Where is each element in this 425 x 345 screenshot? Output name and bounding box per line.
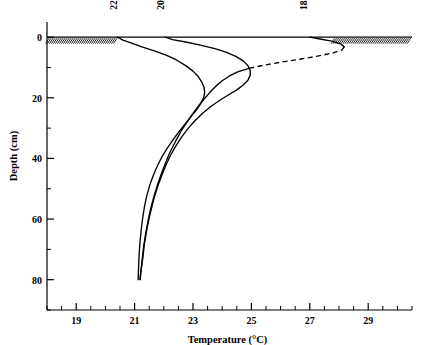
curve-label-2230: 2230 xyxy=(109,0,119,10)
surface-hatch-line xyxy=(46,37,413,44)
soil-temperature-depth-profile-chart: 223020301830 020406080192123252729 Tempe… xyxy=(0,0,425,345)
curve-label-2030: 2030 xyxy=(156,0,166,10)
x-axis-tick-label: 27 xyxy=(305,315,315,326)
y-axis-tick-label: 20 xyxy=(32,93,42,104)
x-axis-tick-label: 29 xyxy=(363,315,373,326)
y-axis-tick-label: 60 xyxy=(32,214,42,225)
y-axis-tick-label: 40 xyxy=(32,153,42,164)
x-axis-tick-label: 21 xyxy=(130,315,140,326)
chart-figure: 223020301830 020406080192123252729 Tempe… xyxy=(0,0,425,345)
data-curves xyxy=(118,37,345,280)
y-axis-tick-label: 80 xyxy=(32,275,42,286)
x-axis-tick-label: 23 xyxy=(188,315,198,326)
temperature-curve-2230 xyxy=(118,37,205,280)
x-axis-tick-label: 25 xyxy=(246,315,256,326)
curve-label-1830: 1830 xyxy=(299,0,309,10)
temperature-curve-1830 xyxy=(310,37,344,47)
y-axis-title: Depth (cm) xyxy=(8,130,20,181)
temperature-curve-1830-lower xyxy=(140,68,250,280)
curve-labels: 223020301830 xyxy=(109,0,309,10)
x-axis-title: Temperature (°C) xyxy=(188,334,268,345)
axis-tick-labels: 020406080192123252729 xyxy=(32,32,373,326)
y-axis-tick-label: 0 xyxy=(37,32,42,43)
x-axis-tick-label: 19 xyxy=(71,315,81,326)
plot-axes xyxy=(47,22,412,310)
temperature-curve-1830-dashed-segment xyxy=(250,47,344,68)
